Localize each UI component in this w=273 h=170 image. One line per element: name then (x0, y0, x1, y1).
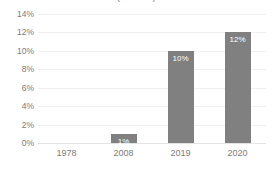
chart-title: (Percent) (0, 0, 273, 2)
plot-area: 1% 10% 12% (38, 14, 266, 143)
bar-slot: 12% (209, 14, 266, 143)
y-axis-tick-label: 0% (22, 138, 34, 148)
bar-series: 1% 10% 12% (38, 14, 266, 143)
bar-2020[interactable]: 12% (225, 32, 251, 143)
y-axis-tick-label: 12% (17, 27, 34, 37)
bar-slot: 10% (152, 14, 209, 143)
y-axis-tick-label: 8% (22, 64, 34, 74)
y-axis-tick-label: 14% (17, 9, 34, 19)
bar-2019[interactable]: 10% (168, 51, 194, 143)
y-axis-tick-label: 6% (22, 83, 34, 93)
x-axis-tick-label: 2008 (95, 148, 152, 158)
x-axis-tick-label: 2019 (152, 148, 209, 158)
x-axis-tick-label: 1978 (38, 148, 95, 158)
bar-value-label: 10% (168, 54, 194, 63)
x-axis: 1978 2008 2019 2020 (38, 148, 266, 158)
bar-value-label: 1% (111, 137, 137, 146)
bar-slot: 1% (95, 14, 152, 143)
bar-chart: (Percent) 14% 12% 10% 8% 6% 4% 2% 0% 1% (0, 0, 273, 170)
bar-2008[interactable]: 1% (111, 134, 137, 143)
bar-value-label: 12% (225, 35, 251, 44)
x-axis-tick-label: 2020 (209, 148, 266, 158)
y-axis-tick-label: 10% (17, 46, 34, 56)
bar-slot (38, 14, 95, 143)
y-axis: 14% 12% 10% 8% 6% 4% 2% 0% (0, 14, 34, 143)
y-axis-tick-label: 4% (22, 101, 34, 111)
axis-baseline (38, 143, 266, 144)
y-axis-tick-label: 2% (22, 120, 34, 130)
